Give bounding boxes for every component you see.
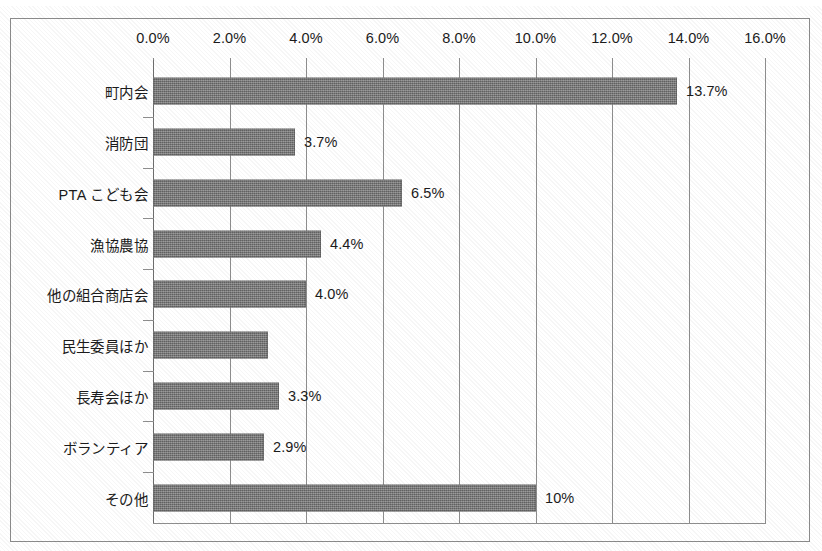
bar [153,78,677,105]
bar [153,281,306,308]
x-axis-tick-label: 6.0% [345,30,421,46]
category-axis-tick [143,472,154,473]
bar [153,332,268,359]
category-label: 民生委員ほか [62,335,148,356]
bar-row: 漁協農協4.4% [0,218,822,269]
category-label: その他 [105,487,148,508]
bar-row: PTA こども会6.5% [0,168,822,219]
category-axis-tick [143,371,154,372]
bar-row: 民生委員ほか [0,320,822,371]
bar [153,433,264,460]
x-axis-tick-label: 2.0% [192,30,268,46]
category-axis-tick [143,218,154,219]
category-axis-tick [143,269,154,270]
bar-row: ボランティア2.9% [0,421,822,472]
bar-row: 町内会13.7% [0,66,822,117]
category-axis-tick [143,117,154,118]
x-axis-tick-label: 4.0% [268,30,344,46]
category-label: 消防団 [105,132,148,153]
bar-value-label: 4.4% [330,236,363,252]
category-axis-tick [143,168,154,169]
category-label: 町内会 [105,81,148,102]
x-axis-tick-label: 0.0% [115,30,191,46]
bar [153,179,402,206]
value-axis-baseline [153,523,766,524]
category-axis-tick [143,320,154,321]
bar-row: その他10% [0,472,822,523]
bar-value-label: 10% [545,490,574,506]
x-axis-tick-label: 14.0% [651,30,727,46]
bar [153,484,536,511]
bar [153,383,279,410]
category-label: ボランティア [63,436,148,457]
bar-row: 他の組合商店会4.0% [0,269,822,320]
x-axis-tick-label: 16.0% [727,30,803,46]
screenshot-root: 0.0%2.0%4.0%6.0%8.0%10.0%12.0%14.0%16.0%… [0,0,822,551]
x-axis-tick-label: 12.0% [574,30,650,46]
scan-edge-top [0,0,822,6]
horizontal-bar-chart: 0.0%2.0%4.0%6.0%8.0%10.0%12.0%14.0%16.0%… [0,0,822,551]
x-axis-tick-label: 10.0% [498,30,574,46]
x-axis-tick-label: 8.0% [421,30,497,46]
bar-value-label: 13.7% [686,83,728,99]
bar-row: 消防団3.7% [0,117,822,168]
bar-value-label: 4.0% [315,286,348,302]
bar-value-label: 3.7% [304,134,337,150]
bar-row: 長寿会ほか3.3% [0,371,822,422]
category-label: 他の組合商店会 [47,284,148,305]
category-label: 長寿会ほか [76,386,148,407]
bar [153,230,321,257]
bar-value-label: 3.3% [288,388,321,404]
category-label: PTA こども会 [58,182,148,203]
bar [153,129,295,156]
category-axis-tick [143,421,154,422]
bar-value-label: 2.9% [273,439,306,455]
bar-value-label: 6.5% [411,185,444,201]
category-label: 漁協農協 [90,233,148,254]
